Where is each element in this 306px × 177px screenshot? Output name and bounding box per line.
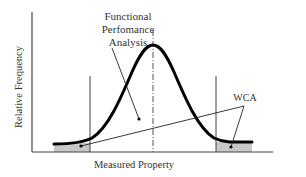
wca-label: WCA bbox=[233, 92, 257, 103]
fpa-label-line2: Perfomance bbox=[102, 23, 155, 35]
wca-pointer-dot-right bbox=[229, 145, 232, 148]
fpa-label-line1: Functional bbox=[104, 10, 151, 22]
distribution-diagram: Functional Perfomance Analysis WCA Measu… bbox=[0, 0, 306, 177]
y-axis-label: Relative Frequency bbox=[13, 45, 24, 128]
x-axis-label: Measured Property bbox=[94, 159, 175, 170]
wca-pointer-dot-left bbox=[79, 144, 82, 147]
fpa-pointer-dot bbox=[137, 117, 140, 120]
fpa-label-line3: Analysis bbox=[109, 36, 148, 48]
